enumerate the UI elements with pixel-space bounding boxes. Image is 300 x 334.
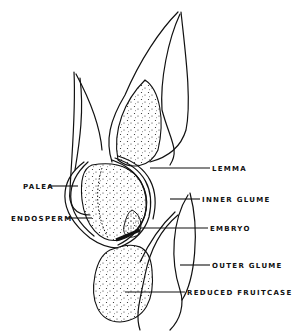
label-palea: PALEA — [23, 183, 54, 191]
label-reduced-fruitcase: REDUCED FRUITCASE — [187, 289, 293, 297]
label-lemma: LEMMA — [212, 165, 247, 173]
spikelet-diagram: LEMMA INNER GLUME EMBRYO OUTER GLUME RED… — [0, 0, 300, 334]
outer-glume-outline — [170, 195, 188, 330]
label-endosperm: ENDOSPERM — [11, 215, 72, 223]
label-embryo: EMBRYO — [210, 225, 251, 233]
label-outer-glume: OUTER GLUME — [212, 262, 283, 270]
spikelet-drawing — [0, 0, 300, 334]
upper-grain — [117, 80, 162, 166]
label-inner-glume: INNER GLUME — [202, 196, 271, 204]
reduced-fruitcase — [94, 245, 153, 322]
